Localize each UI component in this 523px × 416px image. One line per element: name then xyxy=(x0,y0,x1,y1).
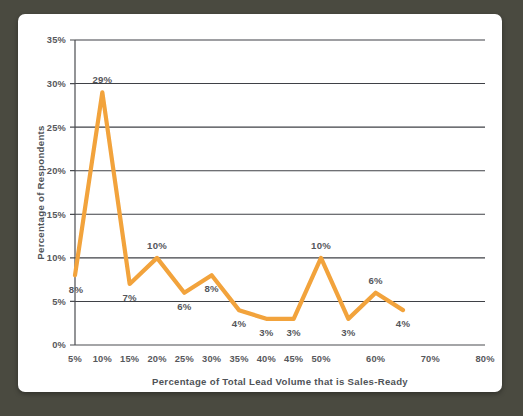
x-axis-tick-label: 50% xyxy=(311,354,331,364)
y-axis-tick-label: 20% xyxy=(47,166,67,176)
x-axis-tick-labels-group: 5%10%15%20%25%30%35%40%45%50%60%70%80% xyxy=(68,354,495,364)
data-point-label: 10% xyxy=(147,240,167,251)
data-point-label: 6% xyxy=(369,275,384,286)
chart-svg: 0%5%10%15%20%25%30%35% 5%10%15%20%25%30%… xyxy=(18,14,502,392)
data-point-label: 3% xyxy=(287,327,302,338)
y-axis-title: Percentage of Respondents xyxy=(35,125,46,259)
x-axis-tick-label: 80% xyxy=(475,354,495,364)
data-series-line xyxy=(75,92,403,319)
x-axis-tick-label: 25% xyxy=(175,354,195,364)
data-point-label: 4% xyxy=(232,318,247,329)
data-point-label: 3% xyxy=(259,327,274,338)
x-axis-tick-label: 20% xyxy=(147,354,167,364)
chart-card: 0%5%10%15%20%25%30%35% 5%10%15%20%25%30%… xyxy=(18,14,502,392)
data-point-label: 3% xyxy=(341,327,356,338)
y-axis-tick-label: 10% xyxy=(47,253,67,263)
x-axis-tick-label: 45% xyxy=(284,354,304,364)
line-chart: 0%5%10%15%20%25%30%35% 5%10%15%20%25%30%… xyxy=(18,14,502,392)
x-axis-tick-label: 40% xyxy=(257,354,277,364)
data-point-label: 4% xyxy=(396,318,411,329)
data-point-label: 7% xyxy=(123,292,138,303)
data-point-label: 8% xyxy=(69,284,84,295)
poster-background: 0%5%10%15%20%25%30%35% 5%10%15%20%25%30%… xyxy=(0,0,523,416)
x-axis-tick-label: 30% xyxy=(202,354,222,364)
y-axis-tick-label: 5% xyxy=(52,297,66,307)
y-axis-tick-label: 30% xyxy=(47,79,67,89)
x-axis-tick-label: 10% xyxy=(93,354,113,364)
y-axis-tick-label: 0% xyxy=(52,340,66,350)
x-axis-tick-label: 15% xyxy=(120,354,140,364)
x-axis-tick-label: 5% xyxy=(68,354,82,364)
y-axis-tick-labels-group: 0%5%10%15%20%25%30%35% xyxy=(47,35,67,350)
x-axis-title: Percentage of Total Lead Volume that is … xyxy=(152,376,408,387)
y-axis-tick-label: 25% xyxy=(47,123,67,133)
y-axis-ticks-group xyxy=(70,40,75,345)
x-axis-tick-label: 60% xyxy=(366,354,386,364)
y-axis-tick-label: 15% xyxy=(47,210,67,220)
data-point-label: 10% xyxy=(311,240,331,251)
data-point-label: 29% xyxy=(92,74,112,85)
x-axis-tick-label: 70% xyxy=(421,354,441,364)
y-axis-tick-label: 35% xyxy=(47,35,67,45)
data-point-label: 6% xyxy=(177,301,192,312)
x-axis-tick-label: 35% xyxy=(229,354,249,364)
data-point-label: 8% xyxy=(205,283,220,294)
gridlines-group xyxy=(75,40,485,301)
